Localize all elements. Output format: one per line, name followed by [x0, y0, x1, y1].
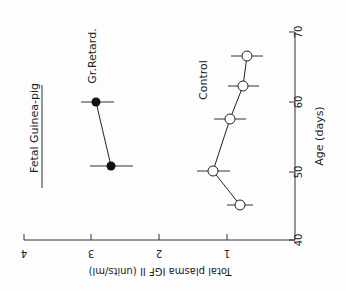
svg-text:2: 2	[156, 248, 162, 259]
igf-tick-labels: 4 3 2 1	[21, 248, 230, 259]
control-point	[242, 51, 252, 61]
igf-ticks	[24, 234, 227, 240]
control-label: Control	[197, 60, 210, 100]
control-point	[235, 200, 245, 210]
svg-text:40: 40	[293, 234, 304, 247]
age-ticks	[289, 32, 295, 240]
svg-text:1: 1	[224, 248, 230, 259]
series-retard	[81, 98, 133, 171]
svg-text:4: 4	[21, 248, 27, 259]
retard-label: Gr.Retard.	[86, 28, 99, 83]
svg-text:70: 70	[293, 26, 304, 39]
chart-title: Fetal Guinea-pig	[28, 83, 41, 173]
chart-svg: 70 60 50 40 Age (days) 4 3 2 1 Total pla…	[0, 0, 346, 291]
igf-axis-label: Total plasma IGF II (units/ml)	[88, 266, 232, 277]
chart-figure: 70 60 50 40 Age (days) 4 3 2 1 Total pla…	[0, 0, 346, 291]
retard-point	[92, 98, 101, 107]
svg-text:50: 50	[293, 166, 304, 179]
svg-text:3: 3	[88, 248, 94, 259]
retard-point	[107, 162, 116, 171]
svg-text:60: 60	[293, 96, 304, 109]
age-axis-label: Age (days)	[313, 106, 326, 165]
control-point	[208, 166, 218, 176]
control-point	[238, 81, 248, 91]
control-point	[225, 114, 235, 124]
